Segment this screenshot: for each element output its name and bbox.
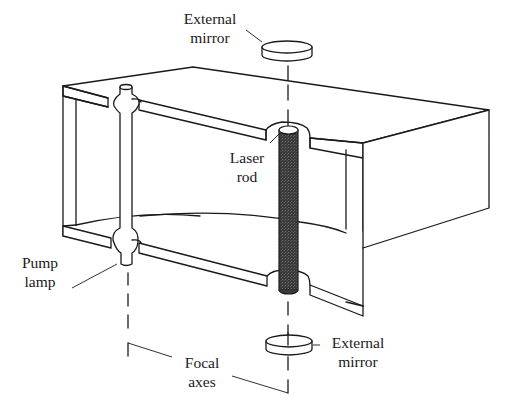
pump-lamp [113, 85, 141, 266]
laser-rod [279, 126, 298, 294]
label-line: lamp [15, 272, 65, 291]
label-line: External [318, 333, 398, 352]
label-pump-lamp: Pump lamp [15, 253, 65, 291]
label-focal-axes: Focal axes [174, 353, 230, 391]
label-external-mirror-top: External mirror [170, 9, 250, 47]
label-line: External [170, 9, 250, 28]
label-laser-rod: Laser rod [222, 148, 272, 186]
label-line: mirror [170, 28, 250, 47]
label-line: axes [174, 372, 230, 391]
label-line: mirror [318, 352, 398, 371]
left-frame [63, 86, 76, 236]
laser-cavity-diagram: External mirror Laser rod Pump lamp Exte… [0, 0, 508, 409]
right-box-face [363, 110, 489, 248]
label-line: Focal [174, 353, 230, 372]
cavity-drawing [0, 0, 508, 409]
cavity-bottom-slab [63, 225, 363, 316]
label-line: rod [222, 167, 272, 186]
label-external-mirror-bottom: External mirror [318, 333, 398, 371]
external-mirror-bottom [266, 333, 312, 355]
right-inner-frame [346, 150, 363, 231]
label-line: Pump [15, 253, 65, 272]
label-line: Laser [222, 148, 272, 167]
external-mirror-top [262, 41, 312, 61]
